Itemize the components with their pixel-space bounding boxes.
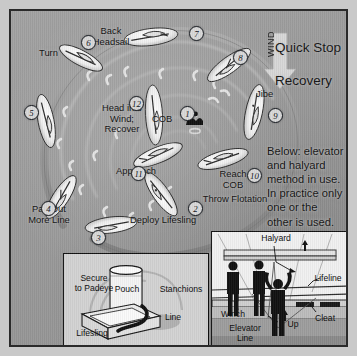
inset-label-line: Line xyxy=(160,313,186,323)
step-marker-2[interactable]: 2 xyxy=(188,201,203,216)
inset-label-stanchions: Stanchions xyxy=(156,285,206,295)
inset-label-cleat: Cleat xyxy=(310,314,340,324)
inset-label-winch: Winch xyxy=(215,310,251,320)
diagram-root: Quick Stop Recovery WIND Below: elevator… xyxy=(0,0,357,356)
inset-label-up: Up xyxy=(284,320,302,330)
inset-label-lifesling: Lifesling xyxy=(68,329,116,339)
step-marker-1[interactable]: 1 xyxy=(180,106,195,121)
diagram-frame: Quick Stop Recovery WIND Below: elevator… xyxy=(9,9,348,347)
step-marker-3[interactable]: 3 xyxy=(91,230,106,245)
inset-label-pouch: Pouch xyxy=(110,285,144,295)
step-marker-6[interactable]: 6 xyxy=(81,35,96,50)
step-marker-7[interactable]: 7 xyxy=(189,26,204,41)
title-line1: Quick Stop xyxy=(275,40,341,55)
inset-label-halyard: Halyard xyxy=(252,234,300,244)
step-marker-4[interactable]: 4 xyxy=(41,201,56,216)
step-marker-9[interactable]: 9 xyxy=(268,108,283,123)
step-marker-12[interactable]: 12 xyxy=(129,96,144,111)
step-marker-10[interactable]: 10 xyxy=(247,168,262,183)
title-line2: Recovery xyxy=(275,73,332,88)
step-marker-11[interactable]: 11 xyxy=(131,166,146,181)
label-jibe: Jibe xyxy=(256,89,273,100)
label-throw-flotation: Throw Flotation xyxy=(193,194,277,205)
inset-elevator-halyard: Halyard Lifeline Winch Up Cleat Elevator… xyxy=(211,231,348,347)
inset-label-lifeline: Lifeline xyxy=(306,274,348,284)
cob-label: COB xyxy=(152,114,172,125)
label-turn: Turn xyxy=(39,48,58,59)
label-deploy-lifesling: Deploy Lifesling xyxy=(118,215,208,226)
wind-label: WIND xyxy=(266,31,276,57)
step-marker-5[interactable]: 5 xyxy=(24,105,39,120)
step-marker-8[interactable]: 8 xyxy=(233,50,248,65)
page-title: Quick Stop Recovery xyxy=(275,24,341,90)
inset-label-elevator-line: Elevator Line xyxy=(218,324,272,343)
method-note: Below: elevator and halyard method in us… xyxy=(267,144,348,229)
inset-lifesling-pouch: Secure to Padeye Pouch Stanchions Line L… xyxy=(63,253,209,347)
